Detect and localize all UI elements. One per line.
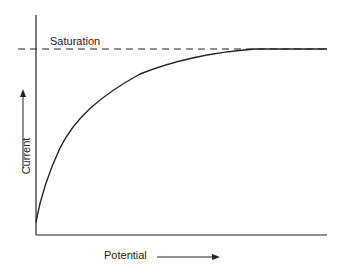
saturation-label: Saturation bbox=[50, 35, 100, 47]
arrow-up-icon bbox=[20, 89, 26, 97]
y-axis-label: Current bbox=[20, 126, 32, 186]
x-axis-label: Potential bbox=[104, 249, 147, 261]
arrow-right-icon bbox=[212, 254, 220, 260]
current-curve bbox=[36, 49, 327, 222]
